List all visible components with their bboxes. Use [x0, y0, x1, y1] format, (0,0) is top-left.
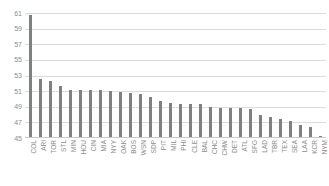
y-axis-tick-label: 47	[2, 119, 22, 126]
x-axis-tick-slot: WSN	[135, 140, 145, 184]
y-axis-tick-label: 53	[2, 72, 22, 79]
bar-slot	[206, 13, 216, 138]
bar[interactable]	[169, 103, 172, 138]
x-axis-tick-slot: STL	[55, 140, 65, 184]
bar-slot	[95, 13, 105, 138]
x-axis-tick-slot: OAK	[115, 140, 125, 184]
y-axis-tick-label: 45	[2, 135, 22, 142]
bar[interactable]	[119, 92, 122, 138]
bar[interactable]	[49, 81, 52, 138]
x-axis-tick-slot: TOR	[45, 140, 55, 184]
bar-series	[25, 13, 326, 138]
y-axis-labels: 615957555351494745	[0, 0, 22, 186]
bar[interactable]	[59, 86, 62, 138]
bar-slot	[105, 13, 115, 138]
x-axis-tick-slot: DET	[226, 140, 236, 184]
y-axis-tick-label: 51	[2, 88, 22, 95]
x-axis-labels: COLARITORSTLMINHOUCINMIANYYOAKBOSWSNSDPP…	[25, 140, 326, 184]
plot-area	[25, 13, 326, 138]
x-axis-tick-slot: MIL	[165, 140, 175, 184]
bar[interactable]	[89, 90, 92, 138]
bar-slot	[286, 13, 296, 138]
x-axis-tick-slot: COL	[25, 140, 35, 184]
y-axis-tick-label: 49	[2, 103, 22, 110]
bar[interactable]	[129, 93, 132, 138]
bar-slot	[75, 13, 85, 138]
bar-slot	[266, 13, 276, 138]
x-axis-tick-slot: BOS	[125, 140, 135, 184]
bar-slot	[226, 13, 236, 138]
bar-slot	[115, 13, 125, 138]
x-axis-tick-slot: BAL	[196, 140, 206, 184]
x-axis-tick-slot: TBR	[266, 140, 276, 184]
bar-slot	[276, 13, 286, 138]
bar-slot	[155, 13, 165, 138]
bar-slot	[125, 13, 135, 138]
x-axis-tick-slot: LAA	[296, 140, 306, 184]
x-axis-tick-slot: ARI	[35, 140, 45, 184]
bar-slot	[186, 13, 196, 138]
bar[interactable]	[39, 79, 42, 138]
bar[interactable]	[109, 91, 112, 138]
x-axis-tick-slot: MIN	[65, 140, 75, 184]
x-axis-tick-slot: MIA	[95, 140, 105, 184]
x-axis-tick-slot: SDP	[145, 140, 155, 184]
x-axis-tick-slot: KCR	[306, 140, 316, 184]
bar-slot	[216, 13, 226, 138]
x-axis-tick-slot: NYY	[105, 140, 115, 184]
x-axis-tick-slot: PHI	[175, 140, 185, 184]
bar[interactable]	[29, 15, 32, 138]
y-axis-tick-label: 59	[2, 25, 22, 32]
x-axis-tick-label: NYM	[321, 133, 328, 147]
bar-slot	[296, 13, 306, 138]
bar-slot	[306, 13, 316, 138]
bar-slot	[196, 13, 206, 138]
bar-slot	[145, 13, 155, 138]
x-axis-tick-slot: CHC	[206, 140, 216, 184]
bar-slot	[25, 13, 35, 138]
x-axis-tick-slot: CHW	[216, 140, 226, 184]
bar[interactable]	[79, 90, 82, 138]
bar-slot	[55, 13, 65, 138]
bar-slot	[85, 13, 95, 138]
y-axis-tick-label: 57	[2, 41, 22, 48]
bar-slot	[65, 13, 75, 138]
x-axis-tick-label-text: NYM	[321, 140, 328, 154]
bar-slot	[35, 13, 45, 138]
bar[interactable]	[149, 97, 152, 138]
x-axis-tick-slot: SFG	[246, 140, 256, 184]
y-axis-tick-label: 55	[2, 56, 22, 63]
bar[interactable]	[69, 90, 72, 138]
x-axis-tick-slot: SEA	[286, 140, 296, 184]
x-axis-tick-slot: CLE	[186, 140, 196, 184]
y-axis-tick-label: 61	[2, 10, 22, 17]
bar[interactable]	[99, 90, 102, 138]
x-axis-tick-slot: NYM	[316, 140, 326, 184]
bar-slot	[256, 13, 266, 138]
x-axis-tick-slot: LAD	[256, 140, 266, 184]
x-axis-tick-slot: TEX	[276, 140, 286, 184]
bar[interactable]	[179, 104, 182, 138]
bar-slot	[135, 13, 145, 138]
bar-slot	[45, 13, 55, 138]
bar-slot	[246, 13, 256, 138]
x-axis-tick-slot: CIN	[85, 140, 95, 184]
bar-slot	[316, 13, 326, 138]
bar-slot	[236, 13, 246, 138]
x-axis-tick-slot: PIT	[155, 140, 165, 184]
bar-slot	[165, 13, 175, 138]
bar-slot	[175, 13, 185, 138]
bar[interactable]	[159, 101, 162, 138]
x-axis-tick-slot: ATL	[236, 140, 246, 184]
x-axis-tick-slot: HOU	[75, 140, 85, 184]
bar-chart: 615957555351494745 COLARITORSTLMINHOUCIN…	[0, 0, 329, 186]
